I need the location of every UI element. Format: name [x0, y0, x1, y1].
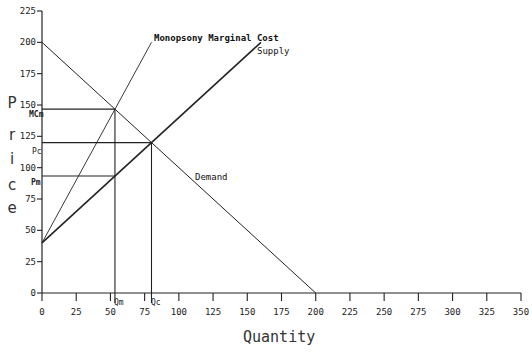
- monopsony-chart: 0255075100125150175200225 02550751001251…: [0, 0, 532, 359]
- x-tick-label: 225: [342, 307, 358, 317]
- supply-curve-label: Supply: [257, 46, 290, 56]
- y-axis-title-char: c: [8, 176, 16, 194]
- x-tick-label: 200: [308, 307, 324, 317]
- y-tick-label: 100: [20, 163, 36, 173]
- y-axis-title: Price: [7, 94, 16, 217]
- x-tick-label: 25: [71, 307, 82, 317]
- y-axis-title-char: e: [7, 199, 16, 217]
- y-tick-label: 0: [31, 288, 36, 298]
- x-tick-label: 275: [410, 307, 426, 317]
- y-tick-label: 175: [20, 69, 36, 79]
- x-tick-label: 325: [479, 307, 495, 317]
- curves: [42, 42, 316, 293]
- x-tick-label: 75: [139, 307, 150, 317]
- x-tick-label: 0: [39, 307, 44, 317]
- x-tick-label: 100: [171, 307, 187, 317]
- y-tick-label: 50: [25, 225, 36, 235]
- y-tick-label: 25: [25, 257, 36, 267]
- x-ticks: 0255075100125150175200225250275300325350: [39, 293, 529, 317]
- pc-label: Pc: [32, 147, 42, 156]
- reference-lines: [42, 109, 151, 303]
- qc-label: Qc: [151, 298, 161, 307]
- demand-curve-label: Demand: [195, 172, 228, 182]
- y-axis-title-char: i: [10, 150, 14, 168]
- x-axis-title: Quantity: [243, 328, 315, 346]
- x-tick-label: 175: [273, 307, 289, 317]
- mc-curve-label: Monopsony Marginal Cost: [154, 33, 279, 43]
- y-tick-label: 200: [20, 37, 36, 47]
- pm-label: Pm: [31, 178, 41, 187]
- x-tick-label: 250: [376, 307, 392, 317]
- y-axis-title-char: P: [7, 94, 16, 112]
- y-tick-label: 225: [20, 6, 36, 16]
- y-axis-title-char: r: [9, 126, 16, 144]
- y-tick-label: 75: [25, 194, 36, 204]
- mcm-label: MCm: [29, 110, 44, 119]
- qm-label: Qm: [114, 298, 124, 307]
- x-tick-label: 150: [239, 307, 255, 317]
- x-tick-label: 300: [444, 307, 460, 317]
- y-tick-label: 125: [20, 131, 36, 141]
- x-tick-label: 50: [105, 307, 116, 317]
- x-tick-label: 125: [205, 307, 221, 317]
- x-tick-label: 350: [513, 307, 529, 317]
- y-tick-label: 150: [20, 100, 36, 110]
